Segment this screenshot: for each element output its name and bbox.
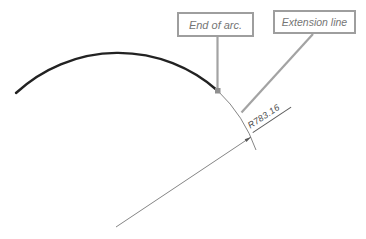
callout-extension-line-label: Extension line — [282, 16, 347, 28]
callout-end-of-arc: End of arc. — [177, 12, 254, 37]
cad-radius-dimension-diagram: End of arc. Extension line R783.16 — [0, 0, 366, 239]
arc — [16, 53, 218, 93]
arc-endpoint-marker — [215, 88, 221, 94]
callout-extension-line: Extension line — [273, 10, 356, 34]
callout-end-of-arc-label: End of arc. — [189, 19, 242, 31]
dimension-arrowhead-icon — [245, 137, 251, 142]
radius-dimension-line — [116, 137, 251, 227]
